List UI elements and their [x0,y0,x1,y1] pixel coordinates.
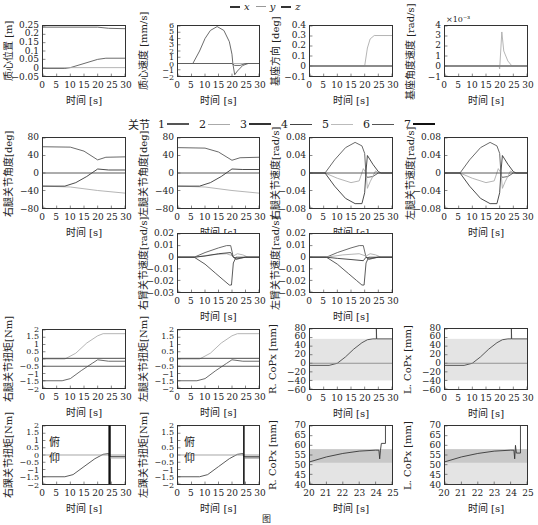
legend-swatch-2 [208,124,230,125]
legend-joint-2: 2 [199,118,206,131]
y-axis-label: 基座角度速度 [rad/s] [402,3,417,100]
plot-area [42,25,126,77]
x-tick-label: 23 [351,489,367,498]
x-tick-label: 30 [252,213,268,222]
legend-swatch-3 [249,123,271,125]
y-axis-label: 质心位置 [m] [0,21,15,81]
legend-swatch-x [230,6,240,8]
x-tick-label: 30 [118,81,134,90]
plot-area [309,328,393,390]
x-tick-label: 23 [486,489,502,498]
x-axis-label: 时间 [s] [464,92,508,107]
x-tick-label: 30 [118,213,134,222]
x-tick-label: 30 [385,213,401,222]
y-axis-label: L. CoPx [mm] [402,325,413,394]
x-axis-label: 时间 [s] [62,500,106,515]
x-tick-label: 30 [118,489,134,498]
x-axis-label: 时间 [s] [62,224,106,239]
legend-swatch-1 [167,123,189,125]
x-tick-label: 30 [252,81,268,90]
y-tick-label: 50 [411,461,441,470]
y-tick-label: 45 [276,471,306,480]
x-tick-label: 22 [470,489,486,498]
series-3 [310,257,392,260]
series-3 [310,156,392,204]
plot-area [309,25,393,77]
series-2 [445,169,527,189]
legend-joint: 关节 1 2 3 4 5 6 7 [128,116,439,132]
series-x [178,27,259,75]
series-2 [310,254,392,257]
x-axis-label: 时间 [s] [197,308,241,323]
series-4 [310,257,392,285]
series-2 [43,334,125,359]
plot-area [309,233,393,293]
y-axis-label: 质心速度 [mm/s] [135,12,150,90]
series-3 [43,169,125,186]
y-axis-label: 右踝关节扭矩[Nm] [0,412,15,498]
plot-area [42,329,126,389]
plot-area [177,25,260,77]
series-z [43,27,125,29]
x-tick-label: 30 [385,394,401,403]
x-tick-label: 30 [252,393,268,402]
legend-swatch-5 [331,124,353,125]
series-spike [109,426,110,484]
series-y [445,32,527,69]
support-band [310,339,392,381]
y-tick-label: 60 [276,441,306,450]
y-axis-label: 左腿关节速度[rad/s] [402,126,417,219]
x-axis-label: 时间 [s] [62,92,106,107]
series-1 [178,148,259,161]
y-axis-label: L. CoPx [mm] [402,421,413,490]
x-axis-label: 时间 [s] [197,404,241,419]
y-tick-label: 55 [411,451,441,460]
x-tick-label: 24 [368,489,384,498]
y-axis-label: 左腿关节扭矩[Nm] [135,316,150,402]
legend-swatch-z [281,6,291,8]
plot-area [309,425,393,485]
legend-swatch-y [256,6,266,7]
y-axis-label: 右臂关节速度[rad/s] [135,216,150,309]
x-tick-label: 30 [385,297,401,306]
plot-annotation: 俯仰 [184,433,195,465]
x-tick-label: 24 [503,489,519,498]
x-tick-label: 20 [301,489,317,498]
y-axis-label: 右腿关节速度[rad/s] [267,126,282,219]
plot-area [177,233,260,293]
x-axis-label: 时间 [s] [197,92,241,107]
x-axis-label: 时间 [s] [329,92,373,107]
plot-area [444,137,528,209]
plot-area [444,425,528,485]
y-tick-label: 70 [276,421,306,430]
x-tick-label: 30 [520,394,536,403]
series-1 [43,360,125,381]
legend-swatch-4 [290,124,312,125]
plot-area [444,25,528,77]
support-band [445,339,527,381]
y-axis-label: 左踝关节扭矩[Nm] [135,412,150,498]
x-tick-label: 30 [252,489,268,498]
series-2 [43,186,125,193]
plot-area [309,137,393,209]
series-4 [178,257,259,285]
x-axis-label: 时间 [s] [197,500,241,515]
series-2 [178,254,259,257]
plot-area [177,329,260,389]
series-3 [178,169,259,186]
plot-area [177,137,260,209]
series-z [178,64,259,66]
x-axis-label: 时间 [s] [464,224,508,239]
legend-joint-4: 4 [281,118,288,131]
y-tick-label: 45 [411,471,441,480]
legend-joint-5: 5 [322,118,329,131]
series-2 [178,334,259,359]
y-tick-label: 70 [411,421,441,430]
x-tick-label: 30 [520,81,536,90]
legend-swatch-6 [372,124,394,125]
x-axis-label: 时间 [s] [464,500,508,515]
plot-area [444,328,528,390]
series-y [310,36,392,66]
y-axis-label: 左腿关节角度[deg] [135,130,150,217]
y-tick-label: 65 [276,431,306,440]
